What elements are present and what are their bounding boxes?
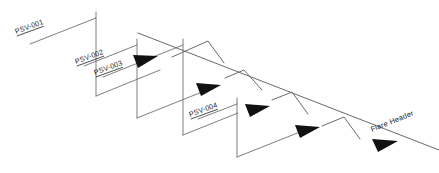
- relief-peak-2: [225, 70, 262, 90]
- psv-004-label-group: PSV-004: [188, 100, 219, 119]
- flow-arrow-2: [196, 83, 221, 96]
- psv-003-branch: [103, 39, 238, 135]
- psv-001-label: PSV-001: [14, 17, 45, 36]
- flow-arrow-3: [245, 104, 270, 117]
- relief-peak-1: [172, 41, 224, 63]
- isometric-drawing-canvas: PSV-001 PSV-002 PSV-003 PSV-004 Flare He…: [0, 0, 439, 173]
- piping-isometric-diagram: PSV-001 PSV-002 PSV-003 PSV-004 Flare He…: [0, 0, 439, 173]
- label-group: PSV-001 PSV-002 PSV-003 PSV-004 Flare He…: [14, 17, 416, 134]
- relief-peak-4: [322, 117, 360, 139]
- flare-header-label: Flare Header: [369, 108, 415, 134]
- psv-002-label: PSV-002: [74, 47, 105, 66]
- relief-peak-3: [272, 92, 308, 114]
- flow-arrow-5: [372, 139, 398, 152]
- psv-001-lower-run: [96, 70, 160, 96]
- psv-004-lower-run: [237, 132, 300, 157]
- flow-arrow-4: [295, 125, 320, 138]
- psv-001-label-group: PSV-001: [14, 17, 45, 36]
- psv-002-label-group: PSV-002: [74, 47, 105, 66]
- flare-header-label-group: Flare Header: [369, 108, 415, 134]
- psv-004-label: PSV-004: [188, 100, 219, 119]
